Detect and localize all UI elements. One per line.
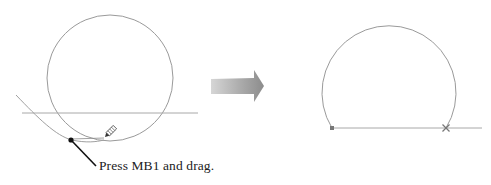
right-arrow-icon xyxy=(211,70,264,102)
leader-line xyxy=(71,140,96,166)
trim-diagram xyxy=(0,0,491,185)
start-point-marker xyxy=(330,126,334,130)
drag-path-curve xyxy=(16,95,104,142)
instruction-caption: Press MB1 and drag. xyxy=(99,158,214,174)
pencil-icon xyxy=(103,125,116,138)
sketch-circle xyxy=(47,15,173,141)
trimmed-arc xyxy=(322,26,456,128)
before-sketch xyxy=(16,15,198,166)
after-sketch xyxy=(322,26,482,132)
preview-segment xyxy=(71,138,104,139)
